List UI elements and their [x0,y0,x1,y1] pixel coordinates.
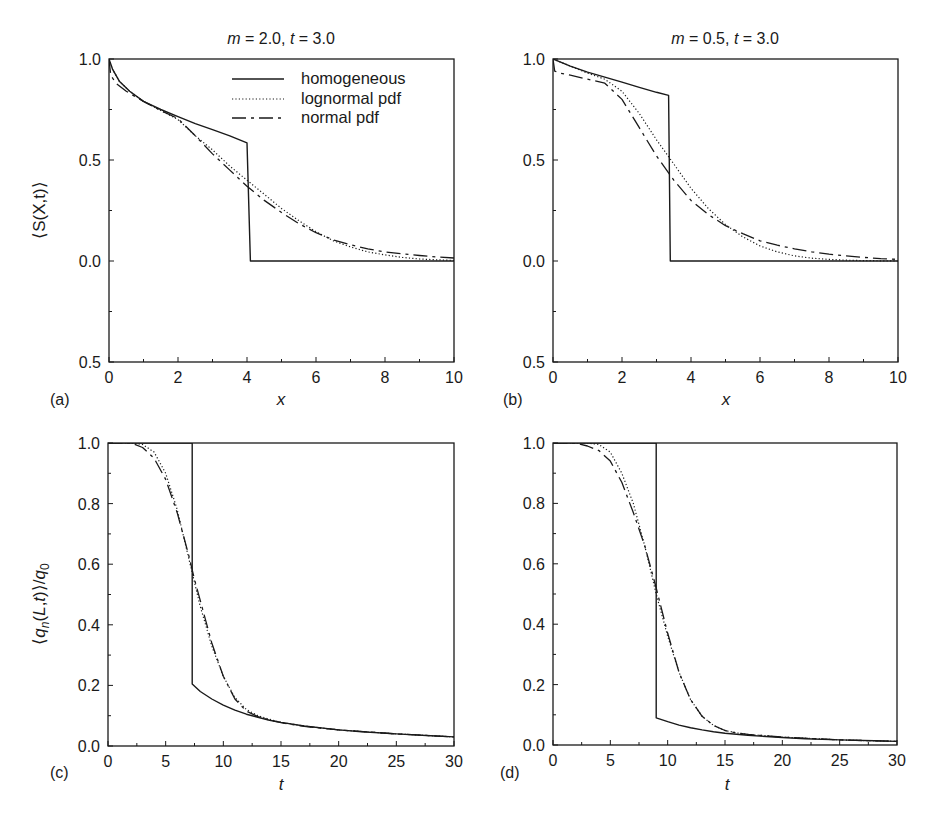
panel-a-title: m = 2.0, t = 3.0 [227,30,335,47]
x-tick-label: 30 [445,753,463,770]
panel-d-label: (d) [500,764,520,781]
panel-a-x-axis-label: x [276,390,286,409]
panel-d: t (d) 0510152025300.00.20.40.60.81.0 [500,435,906,794]
x-tick-label: 5 [606,752,615,769]
y-tick-label: 0.5 [523,152,545,169]
x-tick-label: 15 [716,752,734,769]
y-tick-label: 0.0 [523,253,545,270]
series-normal-pdf [553,59,898,259]
x-tick-label: 0 [105,369,114,386]
series-lognormal-pdf [553,443,897,741]
x-tick-label: 2 [618,369,627,386]
panel-c: ⟨qn(L,t)⟩/q0 t (c) 0510152025300.00.20.4… [30,435,463,794]
x-tick-label: 4 [243,369,252,386]
series-lognormal-pdf [109,59,454,260]
x-tick-label: 8 [825,369,834,386]
y-tick-label: 0.6 [78,556,100,573]
plot-frame [108,443,454,746]
x-tick-label: 2 [174,369,183,386]
legend-label-normal: normal pdf [301,108,379,126]
y-tick-label: 1.0 [523,435,545,452]
series-group [108,443,454,737]
x-tick-label: 0 [104,753,113,770]
x-tick-label: 25 [831,752,849,769]
panel-a: m = 2.0, t = 3.0 ⟨S(X,t)⟩ x (a) 02468101… [30,30,463,409]
y-tick-label: 1.0 [79,51,101,68]
y-tick-label: 0.0 [78,738,100,755]
x-tick-label: 6 [756,369,765,386]
y-tick-label: 1.0 [78,435,100,452]
panel-d-plot-area: 0510152025300.00.20.40.60.81.0 [523,435,906,769]
y-tick-label: 0.4 [78,617,100,634]
y-tick-label: 0.5 [79,354,101,371]
panel-c-x-axis-label: t [279,775,285,794]
y-tick-label: 0.0 [523,737,545,754]
legend-label-homogeneous: homogeneous [301,69,406,87]
y-tick-label: 0.4 [523,616,545,633]
panel-d-x-axis-label: t [725,775,731,794]
x-tick-label: 10 [445,369,463,386]
y-tick-label: 0.0 [79,253,101,270]
x-tick-label: 20 [330,753,348,770]
y-tick-label: 0.6 [523,556,545,573]
x-tick-label: 0 [549,752,558,769]
panel-b-plot-area: 02468101.00.50.00.5 [523,51,907,386]
series-normal-pdf [109,59,454,258]
y-tick-label: 0.8 [523,495,545,512]
series-homogeneous [553,443,897,741]
y-tick-label: 0.5 [79,152,101,169]
x-tick-label: 25 [387,753,405,770]
series-lognormal-pdf [108,443,454,737]
y-tick-label: 0.8 [78,496,100,513]
series-group [109,59,454,261]
panel-a-plot-area: 02468101.00.50.00.5 [79,51,463,386]
y-tick-label: 0.5 [523,354,545,371]
series-homogeneous [108,443,454,737]
panel-a-y-axis-label: ⟨S(X,t)⟩ [30,181,49,238]
x-tick-label: 10 [659,752,677,769]
x-tick-label: 6 [312,369,321,386]
x-tick-label: 20 [773,752,791,769]
series-homogeneous [109,59,454,261]
figure: m = 2.0, t = 3.0 ⟨S(X,t)⟩ x (a) 02468101… [0,0,935,815]
series-group [553,59,898,261]
panel-b: m = 0.5, t = 3.0 x (b) 02468101.00.50.00… [503,30,907,409]
x-tick-label: 5 [161,753,170,770]
y-tick-label: 0.2 [523,677,545,694]
x-tick-label: 15 [272,753,290,770]
legend-label-lognormal: lognormal pdf [301,89,401,107]
x-tick-label: 8 [381,369,390,386]
series-homogeneous [553,59,898,261]
series-normal-pdf [108,443,454,737]
x-tick-label: 0 [549,369,558,386]
panel-b-title: m = 0.5, t = 3.0 [671,30,779,47]
panel-c-plot-area: 0510152025300.00.20.40.60.81.0 [78,435,463,770]
x-tick-label: 30 [888,752,906,769]
y-tick-label: 0.2 [78,677,100,694]
x-tick-label: 10 [889,369,907,386]
y-tick-label: 1.0 [523,51,545,68]
panel-c-label: (c) [50,764,69,781]
plot-frame [553,59,898,362]
series-normal-pdf [553,443,897,741]
panel-a-label: (a) [50,391,70,408]
plot-frame [109,59,454,362]
panel-b-x-axis-label: x [721,390,731,409]
panel-c-y-axis-label: ⟨qn(L,t)⟩/q0 [30,563,52,645]
legend: homogeneous lognormal pdf normal pdf [232,69,406,126]
x-tick-label: 10 [214,753,232,770]
series-lognormal-pdf [553,59,898,261]
plot-frame [553,443,897,745]
x-tick-label: 4 [687,369,696,386]
series-group [553,443,897,741]
panel-b-label: (b) [503,391,523,408]
